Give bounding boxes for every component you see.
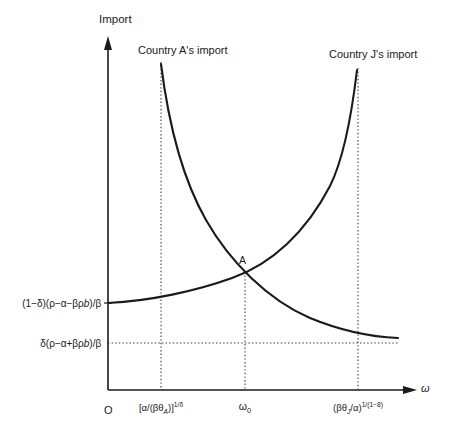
y-axis <box>104 36 112 390</box>
x-tick-label-country-a-threshold: [α/(βθA)]1/δ <box>139 401 183 415</box>
import-curves-figure: Import ω Country A's import Country J's … <box>0 0 453 429</box>
x-axis-label: ω <box>421 382 430 394</box>
origin-label: O <box>104 404 113 416</box>
x-axis <box>108 386 417 394</box>
y-axis-label: Import <box>99 13 132 26</box>
x-tick-label-omega-zero: ω0 <box>239 401 251 415</box>
y-tick-label-lower: δ(ρ−α+βρb)/β <box>0 338 104 349</box>
chart-canvas <box>0 0 453 429</box>
x-tick-label-country-j-threshold: (βθJ/α)1/(1−8) <box>333 401 383 415</box>
y-tick-label-upper: (1−δ)(ρ−α−βρb)/β <box>0 298 104 309</box>
intersection-point-label: A <box>239 255 246 267</box>
curve-label-country-a: Country A's import <box>138 44 228 56</box>
curve-country-j <box>108 70 357 303</box>
curve-country-a <box>161 64 398 338</box>
curve-label-country-j: Country J's import <box>329 48 417 60</box>
